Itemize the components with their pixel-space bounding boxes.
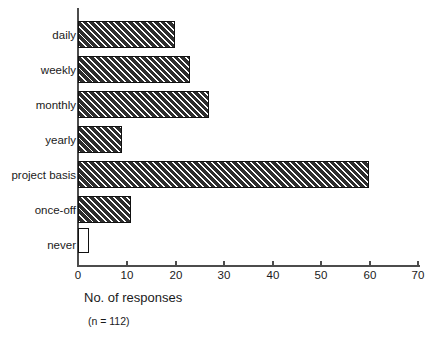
- x-tick-label-30: 30: [218, 269, 231, 282]
- bar-monthly: [78, 91, 209, 118]
- x-tick-label-60: 60: [364, 269, 377, 282]
- x-tick-mark-20: [175, 261, 177, 266]
- x-tick-mark-70: [417, 261, 419, 266]
- bar-project-basis: [78, 161, 369, 188]
- category-label-once-off: once-off: [35, 204, 76, 216]
- x-tick-mark-40: [272, 261, 274, 266]
- category-label-monthly: monthly: [36, 99, 76, 111]
- x-tick-label-20: 20: [170, 269, 183, 282]
- sample-size-note: (n = 112): [88, 315, 130, 327]
- bar-daily: [78, 21, 175, 48]
- bar-chart: daily weekly monthly yearly project basi…: [0, 0, 439, 339]
- bar-yearly: [78, 126, 122, 153]
- x-tick-mark-60: [369, 261, 371, 266]
- x-tick-mark-50: [320, 261, 322, 266]
- bar-once-off: [78, 196, 131, 223]
- category-label-project-basis: project basis: [11, 169, 76, 181]
- x-tick-label-0: 0: [75, 269, 81, 282]
- category-label-never: never: [47, 239, 76, 251]
- x-tick-label-70: 70: [412, 269, 425, 282]
- x-tick-label-10: 10: [121, 269, 134, 282]
- category-label-yearly: yearly: [45, 134, 76, 146]
- x-tick-label-40: 40: [267, 269, 280, 282]
- x-tick-mark-10: [126, 261, 128, 266]
- x-tick-mark-30: [223, 261, 225, 266]
- category-label-daily: daily: [52, 29, 76, 41]
- category-label-weekly: weekly: [41, 64, 76, 76]
- bar-weekly: [78, 56, 190, 83]
- x-tick-mark-0: [77, 261, 79, 266]
- x-tick-label-50: 50: [315, 269, 328, 282]
- x-axis-title: No. of responses: [84, 290, 182, 305]
- bar-never: [78, 228, 89, 253]
